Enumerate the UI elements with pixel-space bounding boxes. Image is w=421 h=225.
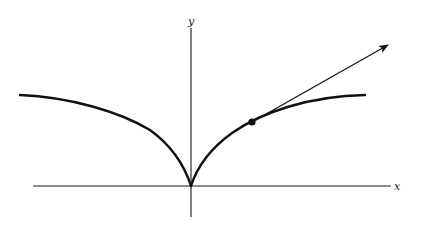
diagram: y x [0, 0, 421, 225]
y-axis-label: y [187, 15, 195, 28]
marked-point-dot [248, 118, 255, 125]
curve-right-branch [191, 95, 365, 186]
tangent-vector-arrow [252, 45, 388, 122]
x-axis-label: x [394, 180, 401, 193]
curve-left-branch [20, 95, 191, 186]
